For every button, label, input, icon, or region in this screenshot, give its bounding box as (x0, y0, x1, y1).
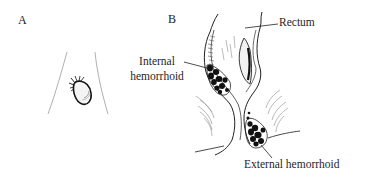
internal-hemorrhoid-label-line1: Internal (127, 55, 187, 68)
external-hemorrhoid-label: External hemorrhoid (244, 158, 339, 171)
rectum-leader-line (245, 24, 278, 28)
internal-hemorrhoid-leader-line (184, 62, 207, 68)
rectum-label: Rectum (279, 16, 315, 29)
internal-hemorrhoid-label-line2: hemorrhoid (127, 70, 187, 83)
external-hemorrhoid-cluster (246, 112, 265, 147)
hemorrhoid-figure: A B (0, 0, 369, 179)
external-hemorrhoid-leader-line (261, 145, 272, 158)
